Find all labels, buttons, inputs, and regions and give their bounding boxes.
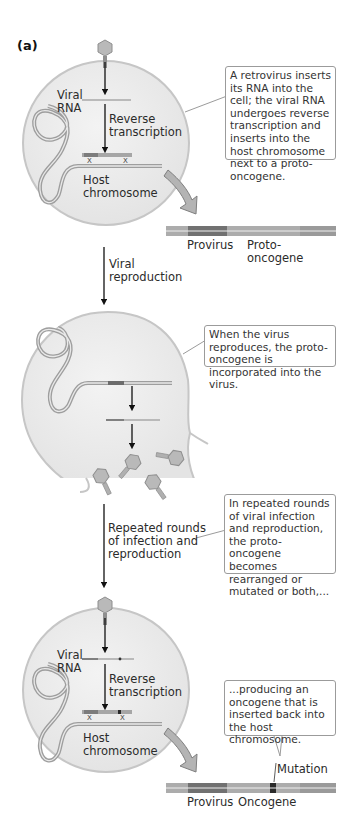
rt-label-line2: transcription (109, 686, 182, 699)
chromosome-strip-stage1 (166, 226, 336, 236)
viral-rna-label-stage1: Viral RNA (57, 89, 83, 115)
rt-label-line2: transcription (109, 126, 182, 139)
reverse-transcription-label-stage3: Reverse transcription (109, 673, 182, 699)
cell-stage1 (23, 61, 189, 225)
viral-reproduction-label: Viral reproduction (109, 258, 182, 284)
repeated-rounds-line3: reproduction (108, 548, 206, 561)
provirus-label-stage1: Provirus (187, 239, 233, 252)
chromosome-strip-stage3 (166, 783, 336, 793)
callout-stage2: When the virus reproduces, the proto-onc… (204, 325, 336, 367)
callout-stage3: ...producing an oncogene that is inserte… (224, 680, 336, 736)
callout-stage1: A retrovirus inserts its RNA into the ce… (225, 66, 336, 160)
viral-rna-label-line2: RNA (57, 662, 83, 675)
svg-text:X: X (120, 714, 125, 722)
host-label-line2: chromosome (83, 745, 158, 758)
host-label-line2: chromosome (83, 187, 158, 200)
reverse-transcription-label-stage1: Reverse transcription (109, 113, 182, 139)
repeated-rounds-label: Repeated rounds of infection and reprodu… (108, 522, 206, 561)
provirus-label-stage3: Provirus (187, 796, 233, 809)
svg-text:X: X (123, 157, 128, 165)
host-chromosome-label-stage3: Host chromosome (83, 732, 158, 758)
svg-text:X: X (87, 714, 92, 722)
viral-rna-label-line2: RNA (57, 102, 83, 115)
callout-transition2: In repeated rounds of viral infection an… (224, 494, 336, 574)
host-chromosome-label-stage1: Host chromosome (83, 174, 158, 200)
panel-label: (a) (17, 38, 38, 53)
proto-oncogene-label: Proto- oncogene (247, 239, 303, 265)
svg-text:X: X (87, 157, 92, 165)
proto-oncogene-label-line2: oncogene (247, 252, 303, 265)
mutation-label: Mutation (277, 763, 328, 776)
viral-reproduction-line2: reproduction (109, 271, 182, 284)
oncogene-label: Oncogene (238, 796, 296, 809)
curved-arrow-stage3 (164, 728, 197, 772)
viral-rna-label-stage3: Viral RNA (57, 649, 83, 675)
